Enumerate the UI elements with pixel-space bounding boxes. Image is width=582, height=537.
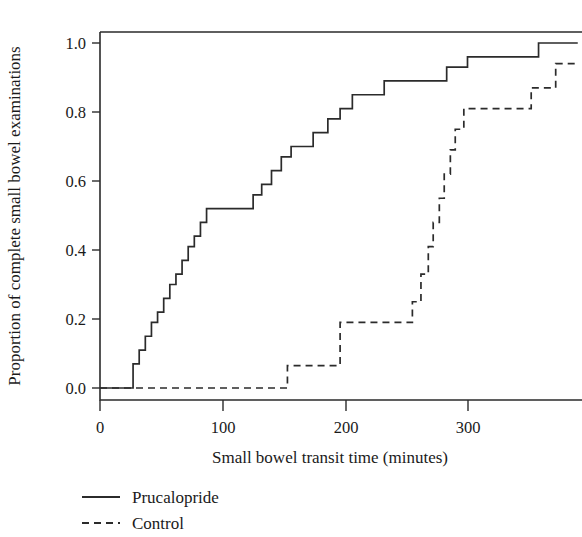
y-axis-title: Proportion of complete small bowel exami… bbox=[5, 46, 24, 385]
plot-frame bbox=[100, 32, 582, 400]
x-tick-label-0: 0 bbox=[96, 418, 104, 437]
series-control-line bbox=[100, 64, 578, 388]
y-tick-label-0.4: 0.4 bbox=[65, 241, 86, 260]
y-tick-label-0.8: 0.8 bbox=[65, 103, 86, 122]
y-tick-label-0.0: 0.0 bbox=[65, 379, 86, 398]
x-tick-label-200: 200 bbox=[334, 418, 359, 437]
data-series-group bbox=[100, 43, 578, 388]
x-axis-ticks bbox=[100, 400, 468, 411]
step-chart-svg: 1.0 0.8 0.6 0.4 0.2 0.0 0 100 200 300 Sm… bbox=[0, 0, 582, 537]
y-axis-ticks bbox=[92, 43, 100, 388]
y-tick-label-0.2: 0.2 bbox=[65, 310, 86, 329]
legend-label-prucalopride: Prucalopride bbox=[132, 488, 219, 507]
y-axis-tick-labels: 1.0 0.8 0.6 0.4 0.2 0.0 bbox=[65, 34, 86, 398]
legend-label-control: Control bbox=[132, 514, 184, 533]
chart-figure: 1.0 0.8 0.6 0.4 0.2 0.0 0 100 200 300 Sm… bbox=[0, 0, 582, 537]
y-tick-label-1.0: 1.0 bbox=[65, 34, 86, 53]
x-axis-tick-labels: 0 100 200 300 bbox=[96, 418, 481, 437]
x-tick-label-300: 300 bbox=[456, 418, 481, 437]
y-tick-label-0.6: 0.6 bbox=[65, 172, 86, 191]
x-axis-title: Small bowel transit time (minutes) bbox=[212, 448, 448, 467]
chart-legend: Prucalopride Control bbox=[82, 488, 219, 533]
series-prucalopride-line bbox=[100, 43, 578, 388]
x-tick-label-100: 100 bbox=[211, 418, 236, 437]
